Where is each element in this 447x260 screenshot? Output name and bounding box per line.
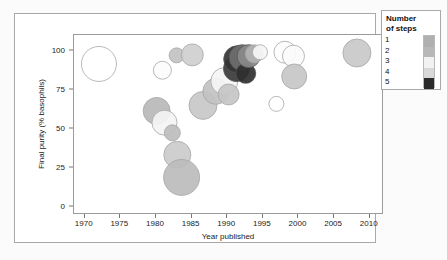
x-tick-label: 1985 [182,219,200,228]
x-tick-mark [84,214,85,218]
legend-title-line2: of steps [386,24,430,34]
legend-key-label: 4 [385,67,419,78]
x-axis-label: Year published [73,232,383,241]
x-tick-mark [191,214,192,218]
bubble-point [282,64,307,89]
legend-key-label: 5 [385,77,419,88]
chart-panel: Final purity (% basophils) 0255075100 19… [14,13,376,243]
x-tick-mark [155,214,156,218]
legend-title: Number of steps [386,14,430,33]
legend-color-swatch [424,47,434,58]
y-tick-label: 100 [52,45,65,54]
legend-color-swatch [424,68,434,79]
legend-key-label: 3 [385,56,419,67]
bubble-point [343,39,371,67]
bubble-point [164,159,200,195]
bubble-series [74,35,383,214]
bubble-point [269,96,284,111]
x-tick-mark [369,214,370,218]
x-tick-label: 1995 [253,219,271,228]
bubble-layer [74,35,382,213]
legend-color-swatch [424,36,434,47]
x-tick-mark [333,214,334,218]
x-tick-label: 1990 [217,219,235,228]
x-tick-label: 1975 [110,219,128,228]
x-tick-label: 2005 [324,219,342,228]
legend-title-line1: Number [386,14,430,24]
legend-key-list: 12345 [385,35,419,88]
x-tick-mark [119,214,120,218]
legend-color-swatch [424,78,434,89]
plot-area [73,34,383,214]
x-tick-mark [297,214,298,218]
bubble-point [153,61,171,79]
legend-key-label: 2 [385,46,419,57]
x-tick-label: 2000 [289,219,307,228]
x-tick-mark [226,214,227,218]
legend: Number of steps 12345 [381,10,441,90]
bubble-point [164,125,180,141]
x-tick-label: 1970 [75,219,93,228]
bubble-point [181,44,203,66]
bubble-point [218,84,239,105]
y-axis-label-area: Final purity (% basophils) [33,34,49,214]
y-axis-label: Final purity (% basophils) [37,79,46,169]
legend-color-bar [423,35,435,88]
bubble-point [253,45,268,60]
bubble-chart-screenshot: Final purity (% basophils) 0255075100 19… [0,0,447,260]
legend-key-label: 1 [385,35,419,46]
x-tick-label: 1980 [146,219,164,228]
y-tick-label: 0 [61,202,65,211]
x-tick-mark [262,214,263,218]
y-tick-label: 50 [56,123,65,132]
y-tick-label: 25 [56,163,65,172]
legend-color-swatch [424,57,434,68]
y-tick-label: 75 [56,84,65,93]
bubble-point [81,46,116,81]
x-tick-label: 2010 [360,219,378,228]
